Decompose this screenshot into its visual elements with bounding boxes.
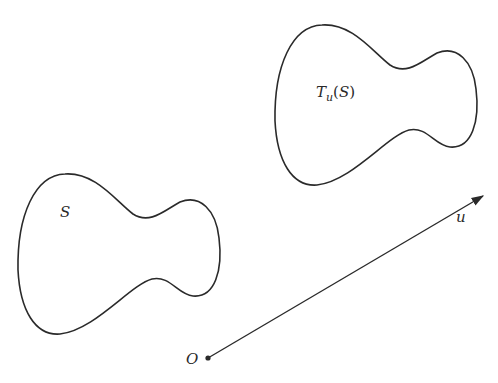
region-s-outline [18, 174, 220, 334]
label-u: u [456, 210, 466, 225]
diagram-svg [0, 0, 498, 383]
paren-close: ) [349, 83, 355, 101]
label-s: S [60, 205, 70, 220]
label-origin: O [186, 352, 198, 367]
label-arg-s: S [339, 83, 349, 101]
label-t: T [316, 83, 326, 101]
label-tu-s: Tu(S) [316, 85, 355, 100]
origin-point [205, 355, 210, 360]
vector-u-arrow [208, 196, 483, 358]
label-sub-u: u [326, 91, 333, 104]
translation-diagram: S Tu(S) u O [0, 0, 498, 383]
region-tu-s-outline [275, 25, 477, 185]
